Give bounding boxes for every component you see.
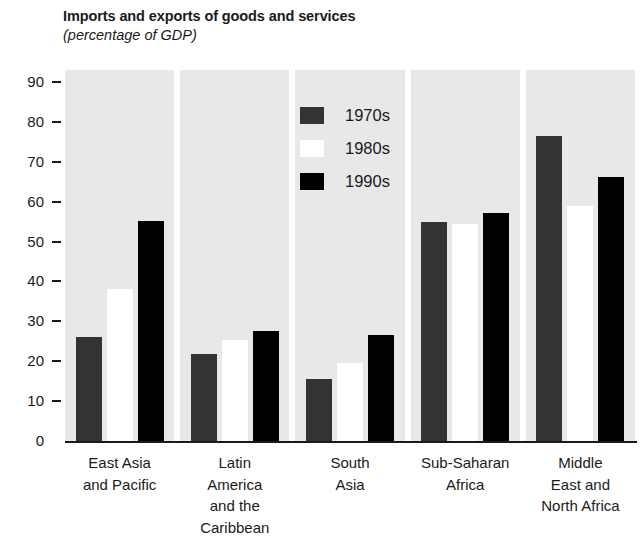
- category-label-line: Africa: [411, 474, 520, 496]
- legend-label-1980s: 1980s: [345, 136, 390, 160]
- legend-swatch-1980s: [300, 140, 324, 157]
- category-label-line: South: [295, 452, 404, 474]
- y-tick-label: 60: [8, 194, 44, 209]
- category-label: LatinAmericaand theCaribbean: [180, 452, 289, 538]
- legend-label-1970s: 1970s: [345, 103, 390, 127]
- bar-1970s-3: [421, 222, 447, 441]
- category-label-line: Asia: [295, 474, 404, 496]
- y-tick-label: 20: [8, 353, 44, 368]
- category-label: East Asiaand Pacific: [65, 452, 174, 495]
- y-tick-label: 50: [8, 234, 44, 249]
- y-tick-label: 80: [8, 114, 44, 129]
- category-label: SouthAsia: [295, 452, 404, 495]
- bar-1990s-2: [368, 335, 394, 441]
- legend-swatch-1990s: [300, 173, 324, 190]
- bar-1980s-0: [107, 289, 133, 441]
- bar-1970s-1: [191, 354, 217, 441]
- y-tick-mark: [52, 360, 61, 362]
- chart-title: Imports and exports of goods and service…: [63, 8, 355, 24]
- bar-1980s-1: [222, 340, 248, 441]
- bar-1980s-2: [337, 363, 363, 441]
- y-tick-mark: [52, 161, 61, 163]
- bar-1990s-1: [253, 331, 279, 441]
- y-tick-mark: [52, 241, 61, 243]
- category-label: MiddleEast andNorth Africa: [526, 452, 635, 517]
- category-label-line: and Pacific: [65, 474, 174, 496]
- legend-swatch-1970s: [300, 107, 324, 124]
- y-tick-label: 0: [8, 433, 44, 448]
- category-label-line: Latin: [180, 452, 289, 474]
- bar-1980s-3: [452, 224, 478, 441]
- category-label-line: East Asia: [65, 452, 174, 474]
- bar-1990s-3: [483, 213, 509, 441]
- y-tick-label: 30: [8, 313, 44, 328]
- y-tick-mark: [52, 121, 61, 123]
- bar-1970s-0: [76, 337, 102, 441]
- bar-1980s-4: [567, 206, 593, 441]
- category-label: Sub-SaharanAfrica: [411, 452, 520, 495]
- legend-label-1990s: 1990s: [345, 169, 390, 193]
- category-label-line: North Africa: [526, 495, 635, 517]
- category-label-line: and the: [180, 495, 289, 517]
- y-tick-mark: [52, 81, 61, 83]
- category-label-line: America: [180, 474, 289, 496]
- y-tick-label: 40: [8, 273, 44, 288]
- y-tick-label: 70: [8, 154, 44, 169]
- bar-1990s-4: [598, 177, 624, 441]
- y-tick-mark: [52, 280, 61, 282]
- y-tick-mark: [52, 400, 61, 402]
- bar-1970s-2: [306, 379, 332, 441]
- category-label-line: East and: [526, 474, 635, 496]
- y-tick-label: 90: [8, 74, 44, 89]
- category-label-line: Middle: [526, 452, 635, 474]
- chart-subtitle: (percentage of GDP): [63, 27, 197, 43]
- category-label-line: Caribbean: [180, 517, 289, 539]
- bar-1990s-0: [138, 221, 164, 441]
- y-tick-mark: [52, 201, 61, 203]
- category-label-line: Sub-Saharan: [411, 452, 520, 474]
- x-axis-baseline: [65, 441, 637, 443]
- chart-figure: Imports and exports of goods and service…: [0, 0, 643, 552]
- y-tick-mark: [52, 320, 61, 322]
- y-tick-label: 10: [8, 393, 44, 408]
- bar-1970s-4: [536, 136, 562, 441]
